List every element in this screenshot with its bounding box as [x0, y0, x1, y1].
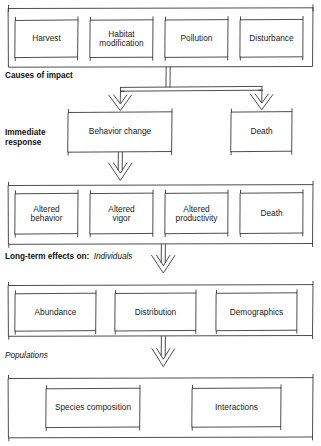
node-box-pollution: [165, 17, 228, 61]
tier-individuals-container: [9, 181, 314, 247]
tier-causes-container: [9, 5, 314, 67]
node-box-disturbance: [240, 16, 303, 60]
tier-caption-individuals-value: Individuals: [94, 252, 133, 261]
node-box-death-immediate: [231, 109, 292, 155]
node-box-species-composition: [46, 385, 140, 430]
flowchart-diagram: Harvest Habitat modification Pollution D…: [0, 0, 321, 446]
connector-behavior-to-individuals: [109, 152, 132, 180]
tier-caption-causes-text: Causes of impact: [5, 71, 73, 80]
tier-communities-container: [9, 374, 314, 440]
tier-caption-causes: Causes of impact: [5, 71, 73, 80]
connector-causes-to-immediate: [120, 67, 262, 103]
node-box-interactions: [192, 385, 281, 430]
node-box-behavior-change: [68, 109, 172, 155]
node-box-abundance: [15, 290, 96, 334]
node-box-altered-vigor: [90, 190, 153, 237]
node-box-harvest: [15, 17, 78, 61]
node-box-death-longterm: [240, 190, 303, 237]
tier-caption-immediate-response-text: Immediate response: [5, 128, 46, 147]
connector-populations-to-communities: [152, 336, 175, 366]
node-box-habitat-modification: [90, 17, 153, 61]
node-box-distribution: [115, 290, 196, 334]
node-box-altered-productivity: [165, 190, 228, 237]
node-box-altered-behavior: [15, 190, 78, 237]
tier-caption-immediate-response: Immediate response: [5, 118, 46, 148]
node-box-demographics: [216, 290, 297, 334]
tier-caption-individuals: Long-term effects on: Individuals: [5, 252, 132, 261]
connector-individuals-to-populations: [152, 244, 175, 273]
diagram-sketch-layer: [0, 0, 321, 446]
tier-caption-individuals-prefix: Long-term effects on:: [5, 252, 89, 261]
tier-caption-populations-value: Populations: [5, 351, 48, 360]
tier-caption-populations: Populations: [5, 351, 48, 360]
